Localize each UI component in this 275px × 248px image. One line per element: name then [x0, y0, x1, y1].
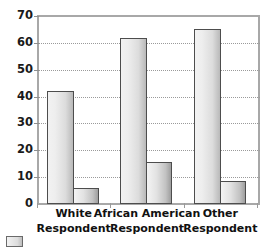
y-tick-label: 10: [5, 171, 33, 183]
x-category-label: OtherRespondent: [165, 207, 275, 237]
bar-series-1: [47, 91, 74, 204]
legend: [6, 236, 66, 248]
y-tick-label: 50: [5, 64, 33, 76]
bar-series-2: [146, 162, 172, 204]
bar-series-1: [194, 29, 221, 204]
y-tick-label: 40: [5, 91, 33, 103]
y-tick-label: 30: [5, 117, 33, 129]
x-category-label-line2: Respondent: [165, 222, 275, 237]
bar-series-2: [73, 188, 99, 204]
x-axis-category-labels: WhiteRespondentAfrican AmericanResponden…: [37, 207, 260, 245]
y-tick-label: 70: [5, 10, 33, 22]
bar-series-layer: [39, 16, 259, 204]
legend-swatch-series-a: [6, 236, 23, 247]
bar-series-2: [220, 181, 246, 204]
x-category-label-line1: Other: [165, 207, 275, 222]
y-tick-label: 20: [5, 144, 33, 156]
bar-series-1: [120, 38, 147, 205]
y-tick-label: 60: [5, 37, 33, 49]
